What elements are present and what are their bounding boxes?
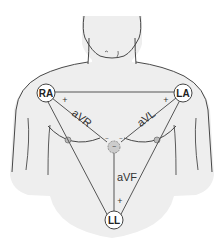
- negative-sign-right: −: [119, 135, 123, 141]
- electrode-la-label: LA: [176, 88, 189, 99]
- electrode-ll-label: LL: [108, 215, 120, 226]
- avr-positive-sign: +: [62, 95, 67, 105]
- electrode-ra: RA: [37, 84, 55, 102]
- avl-positive-sign: +: [163, 95, 168, 105]
- electrode-ll: LL: [105, 211, 123, 229]
- negative-sign-left: −: [105, 135, 109, 141]
- electrode-ra-label: RA: [39, 88, 53, 99]
- avf-positive-sign: +: [117, 196, 122, 206]
- negative-sign: −: [112, 143, 116, 150]
- avf-label: aVF: [117, 171, 137, 183]
- electrode-la: LA: [174, 84, 192, 102]
- torso-silhouette: [10, 16, 214, 238]
- ecg-diagram: − − − + + + aVR aVL aVF RA LA LL: [0, 0, 224, 245]
